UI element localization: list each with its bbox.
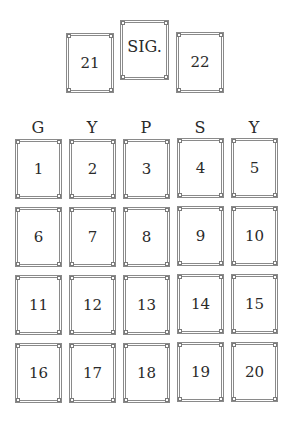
card-label: 3 <box>142 162 152 177</box>
corner-marker <box>124 344 128 348</box>
corner-marker <box>165 140 169 144</box>
grid-card: 4 <box>177 138 224 198</box>
corner-marker <box>232 261 236 265</box>
corner-marker <box>111 262 115 266</box>
card-label: 14 <box>191 297 210 312</box>
card-label: 5 <box>250 161 260 176</box>
grid-card: 18 <box>123 343 170 403</box>
corner-marker <box>219 193 223 197</box>
corner-marker <box>121 75 125 79</box>
corner-marker <box>67 34 71 38</box>
corner-marker <box>16 398 20 402</box>
corner-marker <box>178 329 182 333</box>
card-label: 21 <box>80 56 99 71</box>
corner-marker <box>70 344 74 348</box>
corner-marker <box>165 208 169 212</box>
corner-marker <box>111 398 115 402</box>
corner-marker <box>273 275 277 279</box>
card-label: SIG. <box>127 39 162 55</box>
corner-marker <box>16 140 20 144</box>
card-label: 12 <box>83 298 102 313</box>
card-label: 15 <box>245 297 264 312</box>
grid-card: 2 <box>69 139 116 199</box>
grid-card: 20 <box>231 342 278 402</box>
grid-card: 6 <box>15 207 62 267</box>
corner-marker <box>109 88 113 92</box>
grid-card: 10 <box>231 206 278 266</box>
corner-marker <box>219 343 223 347</box>
corner-marker <box>178 343 182 347</box>
corner-marker <box>111 140 115 144</box>
corner-marker <box>57 276 61 280</box>
column-header-y: Y <box>77 118 107 137</box>
corner-marker <box>111 276 115 280</box>
corner-marker <box>232 329 236 333</box>
corner-marker <box>273 207 277 211</box>
corner-marker <box>219 275 223 279</box>
corner-marker <box>57 140 61 144</box>
corner-marker <box>111 208 115 212</box>
grid-card: 5 <box>231 138 278 198</box>
corner-marker <box>178 193 182 197</box>
grid-card: 17 <box>69 343 116 403</box>
grid-card: 11 <box>15 275 62 335</box>
grid-card: 14 <box>177 274 224 334</box>
card-label: 10 <box>245 229 264 244</box>
corner-marker <box>165 194 169 198</box>
card-label: 20 <box>245 365 264 380</box>
corner-marker <box>67 88 71 92</box>
corner-marker <box>70 194 74 198</box>
card-label: 1 <box>34 162 44 177</box>
corner-marker <box>273 139 277 143</box>
grid-card: 15 <box>231 274 278 334</box>
card-label: 19 <box>191 365 210 380</box>
card-label: 22 <box>190 55 209 70</box>
corner-marker <box>178 139 182 143</box>
corner-marker <box>121 21 125 25</box>
corner-marker <box>57 330 61 334</box>
corner-marker <box>124 276 128 280</box>
corner-marker <box>111 344 115 348</box>
corner-marker <box>219 329 223 333</box>
corner-marker <box>165 344 169 348</box>
corner-marker <box>232 139 236 143</box>
card-label: 4 <box>196 161 206 176</box>
corner-marker <box>57 208 61 212</box>
card-label: 7 <box>88 230 98 245</box>
corner-marker <box>70 276 74 280</box>
grid-card: 3 <box>123 139 170 199</box>
corner-marker <box>70 140 74 144</box>
card-label: 16 <box>29 366 48 381</box>
card-label: 18 <box>137 366 156 381</box>
corner-marker <box>164 21 168 25</box>
corner-marker <box>57 398 61 402</box>
corner-marker <box>164 75 168 79</box>
corner-marker <box>70 330 74 334</box>
corner-marker <box>273 261 277 265</box>
corner-marker <box>219 397 223 401</box>
card-label: 11 <box>29 298 48 313</box>
corner-marker <box>165 276 169 280</box>
corner-marker <box>232 193 236 197</box>
corner-marker <box>124 262 128 266</box>
grid-card: 13 <box>123 275 170 335</box>
corner-marker <box>178 207 182 211</box>
card-label: 13 <box>137 298 156 313</box>
corner-marker <box>232 397 236 401</box>
column-header-g: G <box>23 118 53 137</box>
corner-marker <box>177 88 181 92</box>
corner-marker <box>111 330 115 334</box>
corner-marker <box>57 262 61 266</box>
card-label: 2 <box>88 162 98 177</box>
corner-marker <box>177 33 181 37</box>
corner-marker <box>165 398 169 402</box>
corner-marker <box>70 208 74 212</box>
corner-marker <box>57 344 61 348</box>
corner-marker <box>178 275 182 279</box>
card-signature: SIG. <box>120 20 169 80</box>
corner-marker <box>165 330 169 334</box>
corner-marker <box>219 33 223 37</box>
column-header-p: P <box>131 118 161 137</box>
corner-marker <box>273 193 277 197</box>
corner-marker <box>16 208 20 212</box>
